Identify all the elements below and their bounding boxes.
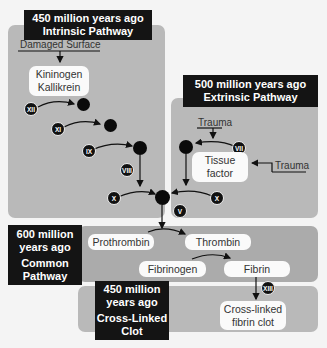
kallikrein-label: Kallikrein [29,81,89,94]
extrinsic-header-age: 500 million years ago [183,78,318,91]
activated-factor-vii-dot [179,140,193,154]
kininogen-kallikrein-box: Kininogen Kallikrein [29,66,89,96]
factor-x-extrinsic: X [210,191,224,205]
trauma-label-side: Trauma [275,160,309,171]
cross-linked-fibrin-clot-box: Cross-linked fibrin clot [220,301,286,330]
factor-xiii: XIII [261,281,275,295]
intrinsic-header-title: Intrinsic Pathway [24,25,152,38]
tissue-label: Tissue [192,154,248,167]
factor-xi: XI [51,122,65,136]
cross-linked-label: Cross-linked [220,303,286,316]
damaged-surface-label: Damaged Surface [20,39,101,50]
intrinsic-header: 450 million years ago Intrinsic Pathway [24,10,152,40]
fibrin-clot-label: fibrin clot [220,316,286,329]
common-header-age-2: years ago [8,241,82,254]
clot-header-age-2: years ago [95,296,169,309]
clot-header-title-2: Clot [95,325,169,338]
common-pathway-header: 600 million years ago Common Pathway [8,225,82,285]
factor-viii: VIII [120,163,134,177]
clot-header-title-1: Cross-Linked [95,312,169,325]
thrombin-box: Thrombin [185,234,251,250]
common-header-title-2: Pathway [8,270,82,283]
fibrinogen-box: Fibrinogen [139,261,206,277]
factor-v: V [173,204,187,218]
tissue-factor-box: Tissue factor [192,152,248,182]
activated-factor-dot [77,98,90,111]
factor-x-intrinsic: X [107,191,121,205]
activated-factor-dot [133,141,147,155]
clot-header-age-1: 450 million [95,283,169,296]
factor-xa-junction-dot [155,190,170,205]
extrinsic-header-title: Extrinsic Pathway [183,91,318,104]
extrinsic-header: 500 million years ago Extrinsic Pathway [183,75,318,107]
cross-linked-clot-header: 450 million years ago Cross-Linked Clot [95,281,169,340]
fibrin-box: Fibrin [224,261,290,277]
prothrombin-box: Prothrombin [88,234,154,250]
factor-ix: IX [82,144,96,158]
factor-label: factor [192,167,248,180]
factor-xii: XII [24,102,38,116]
trauma-label-top: Trauma [198,117,232,128]
activated-factor-dot [104,119,117,132]
intrinsic-header-age: 450 million years ago [24,12,152,25]
kininogen-label: Kininogen [29,68,89,81]
common-header-title-1: Common [8,257,82,270]
common-header-age-1: 600 million [8,228,82,241]
